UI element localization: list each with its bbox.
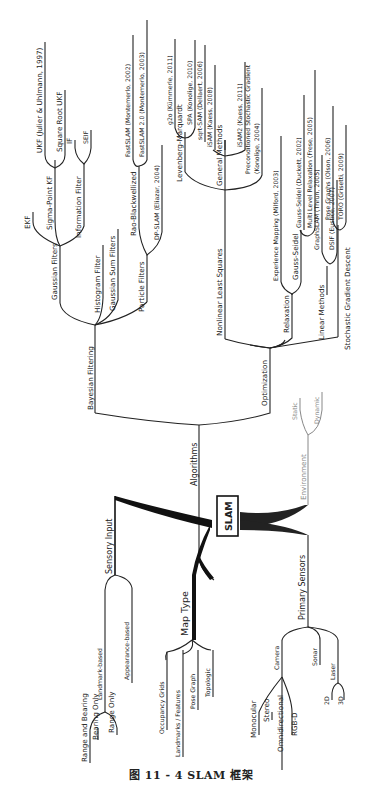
label-stereo: Stereo bbox=[262, 699, 271, 722]
label-pose-graph: Pose Graph bbox=[189, 674, 197, 709]
label-sensory-input: Sensory Input bbox=[105, 519, 114, 574]
label-ekf: EKF bbox=[23, 216, 32, 229]
label-fastslam: FastSLAM (Montemerlo, 2002) bbox=[124, 64, 131, 157]
label-topologic: Topologic bbox=[204, 668, 212, 698]
label-psgd-line1: Preconditioned Stochastic Gradient bbox=[244, 64, 251, 174]
label-relaxation: Relaxation bbox=[282, 295, 291, 333]
label-environment: Environment bbox=[299, 454, 308, 500]
label-g2o: g2o (Kümmerle, 2011) bbox=[166, 55, 174, 125]
label-histogram-filter: Histogram Filter bbox=[93, 256, 102, 313]
environment-labels: Environment Static Dynamic bbox=[291, 396, 321, 500]
label-2d: 2D bbox=[323, 696, 330, 705]
label-landmarks-features: Landmarks / Features bbox=[174, 690, 181, 757]
label-rgb-d: RGB-D bbox=[290, 712, 299, 736]
label-general-methods: General Methods bbox=[215, 124, 224, 186]
label-pose-graphs: Pose Graphs (Olson, 2006) bbox=[324, 138, 332, 221]
label-appearance-based: Appearance-based bbox=[123, 622, 131, 680]
label-levenberg-marquardt: Levenberg-Marquardt bbox=[175, 104, 184, 182]
label-isam: iSAM (Kaess, 2008) bbox=[206, 87, 213, 147]
label-optimization: Optimization bbox=[260, 360, 269, 406]
label-fastslam2: FastSLAM 2.0 (Montemerlo, 2003) bbox=[138, 52, 145, 157]
label-monocular: Monocular bbox=[249, 701, 258, 738]
label-psgd-line2: (Konolige, 2004) bbox=[253, 123, 261, 174]
label-experience-mapping: Experience Mapping (Milford, 2003) bbox=[272, 170, 280, 281]
label-toro: TORO (Grisetti, 2009) bbox=[337, 153, 344, 221]
label-bearing-only: Bearing Only bbox=[91, 693, 100, 740]
slam-root-node: SLAM bbox=[217, 496, 238, 536]
label-if: IF bbox=[65, 138, 74, 144]
label-isam2: iSAM2 (Kaess, 2011) bbox=[236, 83, 243, 147]
label-dp-slam: DP-SLAM (Eliazar, 2004) bbox=[153, 165, 160, 240]
label-bayesian-filtering: Bayesian Filtering bbox=[86, 346, 95, 410]
label-gaussian-sum-filters: Gaussian Sum Filters bbox=[108, 236, 117, 311]
label-ukf: UKF (Julier & Uhlmann, 1997) bbox=[35, 47, 44, 153]
label-linear-methods: Linear Methods bbox=[317, 284, 326, 340]
label-particle-filters: Particle Filters bbox=[137, 261, 146, 312]
map-type-labels: Map Type Occupancy Grids Landmarks / Fea… bbox=[158, 591, 212, 757]
label-camera: Camera bbox=[273, 646, 280, 670]
slam-thick-connectors bbox=[115, 496, 308, 640]
label-sigma-point-kf: Sigma-Point KF bbox=[45, 176, 54, 230]
root-label: SLAM bbox=[223, 501, 234, 531]
label-gauss-seidel-duckett: Gauss-Seidel (Duckett, 2002) bbox=[295, 137, 302, 228]
label-omnidirectional: Omnidirectional bbox=[276, 695, 285, 752]
label-primary-sensors: Primary Sensors bbox=[298, 555, 307, 620]
label-sqrt-sam: sqrt-SAM (Dellaert, 2006) bbox=[196, 61, 204, 140]
label-seif: SEIF bbox=[82, 130, 89, 144]
label-range-only: Range Only bbox=[107, 691, 116, 733]
label-gauss-seidel: Gauss-Seidel bbox=[291, 233, 300, 280]
label-information-filter: Information Filter bbox=[74, 176, 83, 238]
label-landmark-based: Landmark-based bbox=[96, 648, 103, 700]
figure-caption: 图 11 - 4 SLAM 框架 bbox=[0, 766, 382, 782]
algorithm-labels: Algorithms Bayesian Filtering Gaussian F… bbox=[23, 47, 352, 486]
primary-sensors-labels: Primary Sensors Camera Sonar Laser 2D 3D… bbox=[249, 555, 344, 752]
label-spa: SPA (Konolige, 2010) bbox=[186, 61, 194, 125]
slam-mindmap: SLAM Algorithms Bayesian Filtering Gauss… bbox=[0, 0, 382, 790]
label-dynamic: Dynamic bbox=[313, 396, 321, 424]
label-rao-blackwellized: Rao-Blackwellized bbox=[129, 171, 138, 236]
label-3d: 3D bbox=[337, 696, 344, 705]
label-occupancy-grids: Occupancy Grids bbox=[158, 682, 166, 734]
label-laser: Laser bbox=[329, 663, 336, 680]
label-graphslam: GraphSLAM (Thrun, 2005) bbox=[313, 169, 321, 250]
label-nonlinear-least-squares: Nonlinear Least Squares bbox=[215, 248, 224, 336]
label-static: Static bbox=[291, 402, 298, 420]
label-algorithms: Algorithms bbox=[190, 443, 199, 486]
label-sonar: Sonar bbox=[311, 648, 318, 666]
connector-lines bbox=[33, 20, 346, 770]
label-gaussian-filters: Gaussian Filters bbox=[50, 243, 59, 300]
label-multi-level-relaxation: Multi Level Relaxation (Frese, 2005) bbox=[306, 117, 313, 228]
label-map-type: Map Type bbox=[179, 591, 190, 636]
label-stochastic-gradient-descent: Stochastic Gradient Descent bbox=[343, 247, 352, 350]
label-square-root-ukf: Square Root UKF bbox=[55, 92, 64, 152]
label-range-and-bearing: Range and Bearing bbox=[80, 693, 89, 762]
